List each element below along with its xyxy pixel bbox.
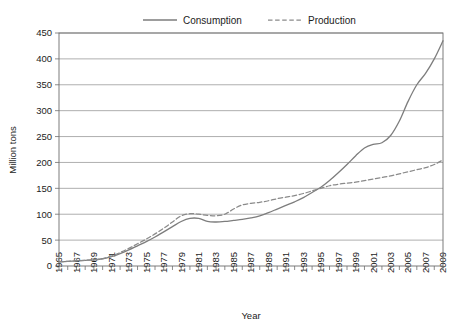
x-tick-label: 1967 bbox=[71, 252, 82, 273]
chart-legend: ConsumptionProduction bbox=[143, 15, 356, 26]
x-tick-label: 1977 bbox=[158, 252, 169, 273]
y-tick-label: 200 bbox=[36, 157, 52, 168]
legend-label-consumption: Consumption bbox=[183, 15, 242, 26]
x-tick-label: 1979 bbox=[176, 252, 187, 273]
y-tick-label: 250 bbox=[36, 131, 52, 142]
x-tick-label: 1997 bbox=[333, 252, 344, 273]
y-tick-label: 400 bbox=[36, 53, 52, 64]
line-chart: 050100150200250300350400450 196519671969… bbox=[0, 0, 458, 326]
y-tick-label: 100 bbox=[36, 209, 52, 220]
x-tick-label: 1973 bbox=[123, 252, 134, 273]
x-tick-label: 1987 bbox=[245, 252, 256, 273]
x-tick-label: 2007 bbox=[420, 252, 431, 273]
series-line-consumption bbox=[59, 41, 443, 262]
x-tick-label: 1981 bbox=[193, 252, 204, 273]
x-tick-label: 2003 bbox=[385, 252, 396, 273]
x-tick-label: 1991 bbox=[280, 252, 291, 273]
chart-canvas: 050100150200250300350400450 196519671969… bbox=[0, 0, 458, 326]
gridlines bbox=[55, 33, 443, 266]
x-tick-label: 1983 bbox=[210, 252, 221, 273]
series-line-production bbox=[59, 160, 443, 262]
x-tick-label: 1995 bbox=[315, 252, 326, 273]
x-tick-label: 2001 bbox=[368, 252, 379, 273]
y-tick-label: 50 bbox=[41, 235, 52, 246]
y-axis-tick-labels: 050100150200250300350400450 bbox=[36, 27, 52, 271]
x-axis-tick-labels: 1965196719691971197319751977197919811983… bbox=[53, 252, 448, 273]
x-tick-label: 1999 bbox=[350, 252, 361, 273]
x-tick-label: 2005 bbox=[402, 252, 413, 273]
plot-area-border bbox=[59, 33, 443, 266]
x-tick-label: 1989 bbox=[263, 252, 274, 273]
x-axis-title: Year bbox=[241, 310, 260, 321]
y-axis-title: Million tons bbox=[7, 126, 18, 174]
y-tick-label: 450 bbox=[36, 27, 52, 38]
data-series-group bbox=[59, 41, 443, 262]
y-tick-label: 350 bbox=[36, 79, 52, 90]
y-tick-label: 0 bbox=[47, 260, 52, 271]
plot-frame bbox=[59, 33, 443, 266]
x-tick-label: 1975 bbox=[141, 252, 152, 273]
x-tick-label: 1993 bbox=[298, 252, 309, 273]
legend-label-production: Production bbox=[308, 15, 356, 26]
x-tick-label: 1985 bbox=[228, 252, 239, 273]
x-tick-label: 1969 bbox=[88, 252, 99, 273]
y-tick-label: 300 bbox=[36, 105, 52, 116]
y-tick-label: 150 bbox=[36, 183, 52, 194]
